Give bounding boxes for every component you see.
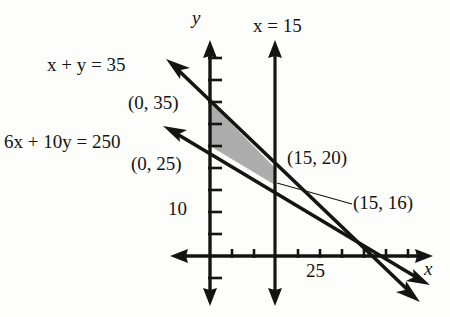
line-x-equals-15-bottom-arrowhead <box>268 288 282 306</box>
equation-label-6x-plus-10y: 6x + 10y = 250 <box>4 132 120 151</box>
x-axis-left-arrowhead <box>170 249 188 263</box>
y-axis-top-arrowhead <box>203 40 217 58</box>
point-label-15-20: (15, 20) <box>287 148 347 167</box>
graph-figure: x + y = 35 6x + 10y = 250 (0, 35) (0, 25… <box>0 0 450 317</box>
equation-label-x-equals-15: x = 15 <box>253 16 302 35</box>
point-label-0-25: (0, 25) <box>131 154 182 173</box>
y-axis-bottom-arrowhead <box>203 288 217 306</box>
coordinate-plane-svg <box>0 0 450 317</box>
line-x-equals-15-top-arrowhead <box>268 40 282 58</box>
x-tick-label-25: 25 <box>306 261 325 280</box>
y-tick-label-10: 10 <box>168 199 187 218</box>
point-label-0-35: (0, 35) <box>128 93 179 112</box>
y-axis-label: y <box>192 8 200 27</box>
equation-label-x-plus-y: x + y = 35 <box>47 55 125 74</box>
x-axis-label: x <box>424 259 432 278</box>
point-label-15-16: (15, 16) <box>353 193 413 212</box>
